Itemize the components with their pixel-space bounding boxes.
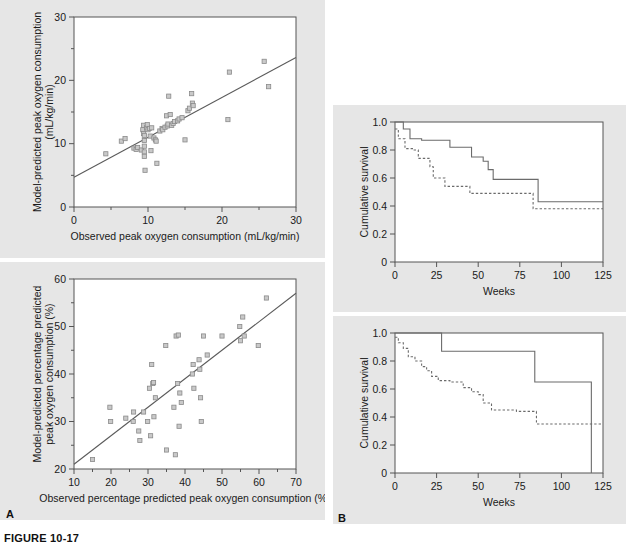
- y-tick-label: 0.2: [372, 439, 387, 451]
- data-point-marker: [191, 362, 195, 366]
- data-point-marker: [190, 372, 194, 376]
- x-tick-label: 100: [553, 480, 571, 492]
- data-point-marker: [172, 405, 176, 409]
- data-point-marker: [147, 386, 151, 390]
- data-point-marker: [108, 405, 112, 409]
- data-point-marker: [262, 59, 266, 63]
- data-point-marker: [137, 429, 141, 433]
- data-point-marker: [138, 438, 142, 442]
- data-point-marker: [177, 424, 181, 428]
- data-point-marker: [201, 334, 205, 338]
- data-point-marker: [267, 85, 271, 89]
- plot-frame: [395, 333, 603, 473]
- data-point-marker: [142, 138, 146, 142]
- data-point-marker: [238, 324, 242, 328]
- chart-top-left-scatter: 01020300102030Observed peak oxygen consu…: [0, 0, 325, 258]
- y-tick-label: 20: [54, 463, 66, 475]
- y-tick-label: 0.2: [372, 228, 387, 240]
- x-tick-label: 50: [472, 269, 484, 281]
- y-tick-label: 0.8: [372, 355, 387, 367]
- data-point-marker: [123, 137, 127, 141]
- data-point-marker: [180, 116, 184, 120]
- data-point-marker: [197, 358, 201, 362]
- data-point-marker: [191, 104, 195, 108]
- data-point-marker: [131, 419, 135, 423]
- x-axis-title: Observed percentage predicted peak oxyge…: [39, 492, 325, 504]
- top-right-svg: 025507510012500.20.40.60.81.0WeeksCumula…: [333, 105, 626, 312]
- data-point-marker: [179, 400, 183, 404]
- data-point-marker: [149, 149, 153, 153]
- data-point-marker: [131, 410, 135, 414]
- chart-bottom-right-survival: 025507510012500.20.40.60.81.0WeeksCumula…: [333, 316, 626, 524]
- bottom-right-svg: 025507510012500.20.40.60.81.0WeeksCumula…: [333, 316, 626, 524]
- data-point-marker: [142, 154, 146, 158]
- data-point-marker: [183, 138, 187, 142]
- y-tick-label: 0.4: [372, 200, 387, 212]
- y-tick-label: 0.6: [372, 383, 387, 395]
- x-tick-label: 125: [594, 269, 612, 281]
- data-point-marker: [190, 92, 194, 96]
- y-tick-label: 60: [54, 273, 66, 285]
- data-point-marker: [109, 419, 113, 423]
- x-tick-label: 0: [392, 269, 398, 281]
- data-point-marker: [90, 457, 94, 461]
- data-point-marker: [153, 396, 157, 400]
- x-tick-label: 30: [290, 214, 302, 226]
- y-axis-title: Cumulative survival: [358, 146, 370, 237]
- data-point-marker: [176, 381, 180, 385]
- y-tick-label: 0: [381, 256, 387, 268]
- panel-label-b: B: [338, 512, 346, 524]
- data-point-marker: [226, 118, 230, 122]
- data-point-marker: [143, 168, 147, 172]
- data-point-marker: [264, 296, 268, 300]
- y-tick-label: 30: [54, 415, 66, 427]
- data-point-marker: [155, 161, 159, 165]
- data-point-marker: [173, 453, 177, 457]
- x-tick-label: 0: [71, 214, 77, 226]
- data-point-marker: [238, 339, 242, 343]
- data-point-marker: [150, 362, 154, 366]
- data-point-marker: [227, 70, 231, 74]
- x-tick-label: 10: [68, 476, 80, 488]
- chart-top-right-survival: 025507510012500.20.40.60.81.0WeeksCumula…: [333, 105, 626, 312]
- y-tick-label: 20: [54, 74, 66, 86]
- chart-bottom-left-scatter: 102030405060702030405060Observed percent…: [0, 262, 325, 520]
- y-axis-title-line2: (mL/kg/min): [43, 84, 55, 139]
- y-tick-label: 0.6: [372, 172, 387, 184]
- data-point-marker: [178, 391, 182, 395]
- data-point-marker: [142, 133, 146, 137]
- x-tick-label: 125: [594, 480, 612, 492]
- data-point-marker: [148, 434, 152, 438]
- y-axis-title: Cumulative survival: [358, 357, 370, 448]
- data-point-marker: [141, 410, 145, 414]
- y-tick-label: 10: [54, 137, 66, 149]
- data-point-marker: [205, 353, 209, 357]
- data-point-marker: [146, 419, 150, 423]
- data-point-marker: [198, 396, 202, 400]
- x-axis-title: Observed peak oxygen consumption (mL/kg/…: [71, 230, 300, 242]
- data-point-marker: [241, 315, 245, 319]
- x-tick-label: 40: [179, 476, 191, 488]
- y-axis-title-line2: peak oxygen consumption (%): [43, 303, 55, 444]
- x-tick-label: 10: [142, 214, 154, 226]
- x-tick-label: 60: [253, 476, 265, 488]
- y-tick-label: 0.8: [372, 144, 387, 156]
- data-point-marker: [164, 448, 168, 452]
- data-point-marker: [104, 152, 108, 156]
- data-point-marker: [124, 416, 128, 420]
- panel-label-a: A: [6, 508, 14, 520]
- data-point-marker: [151, 380, 155, 384]
- data-point-marker: [176, 333, 180, 337]
- y-tick-label: 30: [54, 11, 66, 23]
- x-tick-label: 100: [553, 269, 571, 281]
- data-point-marker: [142, 144, 146, 148]
- figure-caption: FIGURE 10-17: [4, 532, 79, 542]
- bottom-left-svg: 102030405060702030405060Observed percent…: [0, 262, 325, 520]
- x-tick-label: 20: [105, 476, 117, 488]
- data-point-marker: [142, 150, 146, 154]
- x-tick-label: 25: [431, 480, 443, 492]
- data-point-marker: [242, 334, 246, 338]
- top-left-svg: 01020300102030Observed peak oxygen consu…: [0, 0, 325, 258]
- data-point-marker: [199, 419, 203, 423]
- x-tick-label: 75: [514, 480, 526, 492]
